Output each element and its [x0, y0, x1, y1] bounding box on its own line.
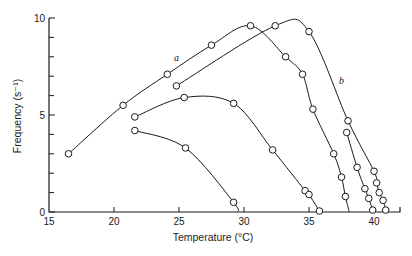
- series-line: [69, 26, 350, 212]
- frequency-vs-temperature-chart: 1520253035400510 Temperature (°C) Freque…: [0, 0, 412, 256]
- curve-label-b: b: [339, 75, 344, 86]
- series-e: [132, 127, 239, 212]
- data-point-marker: [316, 208, 323, 215]
- series-d: [132, 94, 323, 214]
- data-point-marker: [310, 106, 317, 113]
- data-point-marker: [369, 207, 376, 214]
- data-point-marker: [299, 71, 306, 78]
- data-point-marker: [247, 22, 254, 29]
- axes: [49, 18, 400, 212]
- y-axis-label: Frequency (s⁻¹): [11, 79, 23, 153]
- x-tick-label: 40: [368, 216, 380, 227]
- x-tick-label: 25: [173, 216, 185, 227]
- axis-ticks: 1520253035400510: [34, 13, 380, 227]
- data-point-marker: [380, 197, 387, 204]
- y-tick-label: 10: [34, 13, 46, 24]
- data-point-marker: [120, 102, 127, 109]
- data-point-marker: [306, 191, 313, 198]
- chart-labels: Temperature (°C) Frequency (s⁻¹) ab: [11, 52, 344, 243]
- data-point-marker: [132, 127, 139, 134]
- y-tick-label: 5: [39, 110, 45, 121]
- data-point-marker: [132, 114, 139, 121]
- data-point-marker: [345, 118, 352, 125]
- y-tick-label: 0: [39, 207, 45, 218]
- data-point-marker: [376, 189, 383, 196]
- data-point-marker: [373, 180, 380, 187]
- data-point-marker: [65, 151, 72, 158]
- data-point-marker: [208, 42, 215, 49]
- data-point-marker: [282, 54, 289, 61]
- data-point-marker: [306, 28, 313, 35]
- series-a: [65, 22, 349, 212]
- data-point-marker: [230, 199, 237, 206]
- data-point-marker: [371, 168, 378, 175]
- data-point-marker: [366, 195, 373, 202]
- data-point-marker: [330, 151, 337, 158]
- data-point-marker: [173, 83, 180, 90]
- x-tick-label: 15: [43, 216, 55, 227]
- data-point-marker: [181, 94, 188, 101]
- data-point-marker: [362, 185, 369, 192]
- data-point-marker: [338, 174, 345, 181]
- data-point-marker: [342, 193, 349, 200]
- series-line: [135, 131, 239, 212]
- axis-lines: [49, 18, 400, 212]
- data-point-marker: [164, 71, 171, 78]
- x-axis-label: Temperature (°C): [173, 231, 254, 243]
- x-tick-label: 30: [238, 216, 250, 227]
- data-point-marker: [182, 145, 189, 152]
- x-tick-label: 20: [108, 216, 120, 227]
- data-point-marker: [382, 207, 389, 214]
- curve-label-a: a: [174, 52, 179, 63]
- data-point-marker: [269, 147, 276, 154]
- data-point-marker: [354, 164, 361, 171]
- data-point-marker: [343, 129, 350, 136]
- x-tick-label: 35: [303, 216, 315, 227]
- data-series: [65, 19, 389, 214]
- data-point-marker: [272, 22, 279, 29]
- data-point-marker: [230, 100, 237, 107]
